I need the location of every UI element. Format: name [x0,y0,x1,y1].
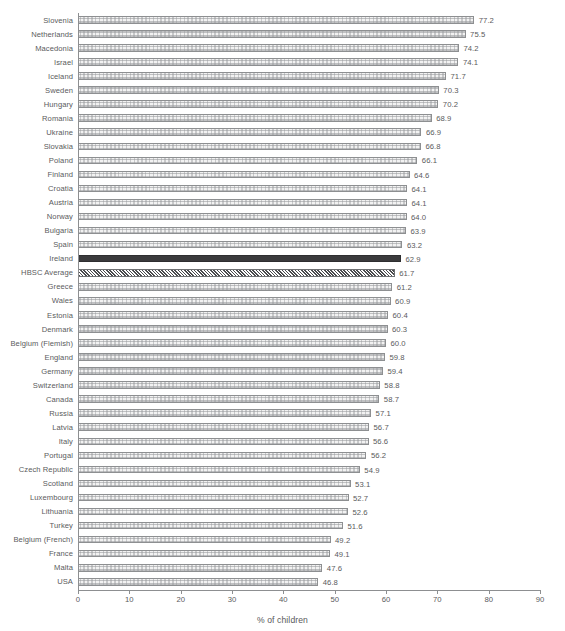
bar-track: 68.9 [78,111,565,125]
category-label: Austria [0,198,78,207]
chart-row: Russia57.1 [0,406,565,420]
chart-row: Estonia60.4 [0,308,565,322]
bar [78,72,446,80]
category-label: Sweden [0,86,78,95]
bar-track: 71.7 [78,69,565,83]
bar [78,213,407,221]
bar-track: 74.2 [78,41,565,55]
bar-value-label: 64.0 [411,212,426,221]
chart-row: Lithuania52.6 [0,505,565,519]
bar-value-label: 74.2 [463,44,478,53]
bar [78,171,410,179]
bar [78,44,459,52]
bar-value-label: 62.9 [405,254,420,263]
x-axis-tick [335,590,336,594]
bar-value-label: 60.9 [395,296,410,305]
x-axis-tick [232,590,233,594]
category-label: Romania [0,114,78,123]
category-label: Bulgaria [0,226,78,235]
bar [78,536,331,544]
bar-value-label: 56.6 [373,437,388,446]
bar [78,269,395,277]
bar [78,199,407,207]
bar-value-label: 61.7 [399,268,414,277]
bar-track: 64.1 [78,196,565,210]
bar-value-label: 68.9 [436,114,451,123]
category-label: Netherlands [0,30,78,39]
category-label: Israel [0,58,78,67]
category-label: Ukraine [0,128,78,137]
bar [78,494,349,502]
category-label: Finland [0,170,78,179]
bar-value-label: 52.7 [353,493,368,502]
bar [78,339,386,347]
category-label: Poland [0,156,78,165]
bar-value-label: 53.1 [355,479,370,488]
chart-row: Germany59.4 [0,364,565,378]
x-axis-tick-label: 30 [228,595,237,604]
bar-track: 58.7 [78,392,565,406]
chart-row: Iceland71.7 [0,69,565,83]
bar [78,241,402,249]
category-label: Russia [0,409,78,418]
category-label: Italy [0,437,78,446]
chart-row: Switzerland58.8 [0,378,565,392]
bar-chart: Slovenia77.2Netherlands75.5Macedonia74.2… [0,0,565,631]
bar-track: 58.8 [78,378,565,392]
chart-row: Wales60.9 [0,294,565,308]
bar-value-label: 54.9 [364,465,379,474]
bar-track: 47.6 [78,561,565,575]
y-axis-line [78,13,79,590]
bar-track: 60.4 [78,308,565,322]
chart-row: Bulgaria63.9 [0,224,565,238]
category-label: Luxembourg [0,493,78,502]
bar-value-label: 60.0 [391,339,406,348]
chart-row: France49.1 [0,547,565,561]
bar-value-label: 60.4 [393,311,408,320]
bar-value-label: 70.2 [443,100,458,109]
chart-row: Spain63.2 [0,238,565,252]
bar-track: 64.0 [78,210,565,224]
bar [78,30,466,38]
bar-track: 74.1 [78,55,565,69]
bar-value-label: 70.3 [443,86,458,95]
bar [78,353,385,361]
bar [78,522,343,530]
bar-track: 64.1 [78,182,565,196]
chart-row: Malta47.6 [0,561,565,575]
bar-value-label: 52.6 [353,507,368,516]
bar-track: 66.1 [78,153,565,167]
category-label: Lithuania [0,507,78,516]
chart-row: Luxembourg52.7 [0,491,565,505]
bar-track: 51.6 [78,519,565,533]
bar [78,325,388,333]
bar-value-label: 64.1 [412,198,427,207]
chart-row: Macedonia74.2 [0,41,565,55]
chart-row: England59.8 [0,350,565,364]
category-label: USA [0,577,78,586]
bar-value-label: 61.2 [397,282,412,291]
category-label: Greece [0,282,78,291]
category-label: Spain [0,240,78,249]
x-axis-tick [386,590,387,594]
bar-track: 70.3 [78,83,565,97]
chart-row: Israel74.1 [0,55,565,69]
bar-track: 49.2 [78,533,565,547]
chart-row: Italy56.6 [0,434,565,448]
bar [78,578,318,586]
category-label: Estonia [0,311,78,320]
bar [78,86,439,94]
bar-track: 49.1 [78,547,565,561]
bar-value-label: 77.2 [479,16,494,25]
bar-value-label: 58.8 [384,381,399,390]
bar-track: 75.5 [78,27,565,41]
bar [78,185,407,193]
bar [78,283,392,291]
chart-plot-area: Slovenia77.2Netherlands75.5Macedonia74.2… [0,13,565,589]
bar-track: 59.8 [78,350,565,364]
bar-track: 56.2 [78,448,565,462]
bar-value-label: 51.6 [347,521,362,530]
x-axis-tick-label: 50 [330,595,339,604]
x-axis-tick [489,590,490,594]
bar [78,100,438,108]
